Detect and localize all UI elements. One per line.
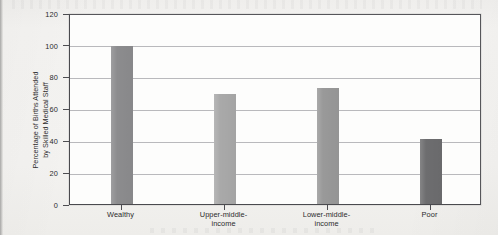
scan-artifact-top	[12, 0, 482, 9]
y-axis-tick-label: 120	[30, 10, 58, 19]
y-axis-tick	[63, 141, 69, 142]
y-axis-tick-label: 60	[30, 105, 58, 114]
y-axis-title: Percentage of Births Attended by Skilled…	[28, 33, 54, 208]
page-edge-shadow	[0, 0, 3, 235]
bar	[214, 94, 236, 204]
bar	[111, 46, 133, 204]
y-axis-tick-label: 100	[30, 42, 58, 51]
y-axis-tick	[63, 14, 69, 15]
y-axis-tick-label: 80	[30, 73, 58, 82]
x-axis-category-label-line: Upper-middle-	[164, 210, 284, 219]
gridline	[70, 15, 480, 16]
y-axis-title-line-2: by Skilled Medical Staff	[41, 82, 51, 157]
y-axis-tick	[63, 109, 69, 110]
x-axis-category-label-line: Wealthy	[61, 210, 181, 219]
x-axis-category-label-line: income	[267, 219, 387, 228]
x-axis-category-label: Wealthy	[61, 210, 181, 219]
x-axis-category-label-line: income	[164, 219, 284, 228]
y-axis-tick	[63, 45, 69, 46]
y-axis-tick	[63, 77, 69, 78]
y-axis-title-line-1: Percentage of Births Attended	[31, 72, 41, 169]
y-axis-tick-label: 0	[30, 201, 58, 210]
y-axis-tick	[63, 173, 69, 174]
bar	[317, 88, 339, 204]
x-axis-category-label: Upper-middle-income	[164, 210, 284, 229]
y-axis-tick-label: 20	[30, 169, 58, 178]
x-axis-category-label-line: Poor	[370, 210, 490, 219]
plot-inner	[70, 15, 480, 204]
y-axis-tick	[63, 205, 69, 206]
x-axis-category-label-line: Lower-middle-	[267, 210, 387, 219]
figure-page: Percentage of Births Attended by Skilled…	[0, 0, 498, 235]
y-axis-tick-label: 40	[30, 137, 58, 146]
bar	[420, 139, 442, 204]
x-axis-category-label: Poor	[370, 210, 490, 219]
x-axis-category-label: Lower-middle-income	[267, 210, 387, 229]
plot-area	[69, 14, 481, 205]
